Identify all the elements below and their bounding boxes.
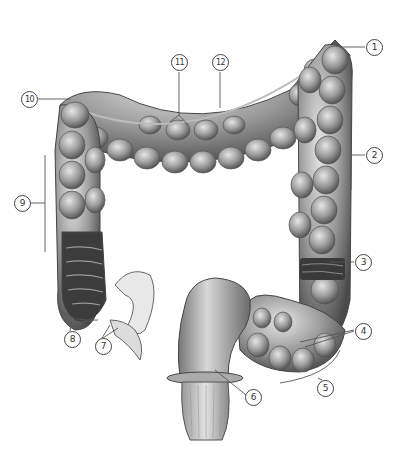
callout-label-3: 3 (355, 254, 372, 271)
callout-label-7: 7 (95, 338, 112, 355)
callout-label-5: 5 (317, 380, 334, 397)
callout-label-9: 9 (14, 195, 31, 212)
callout-label-12: 12 (212, 54, 229, 71)
callout-label-10: 10 (21, 91, 38, 108)
callout-label-1: 1 (366, 39, 383, 56)
callout-label-2: 2 (366, 147, 383, 164)
colon-illustration (0, 0, 402, 471)
callout-label-4: 4 (355, 323, 372, 340)
rectum (178, 278, 250, 378)
callout-label-6: 6 (245, 389, 262, 406)
callout-label-11: 11 (171, 54, 188, 71)
cecum-cutaway (62, 232, 106, 321)
callout-label-8: 8 (64, 331, 81, 348)
